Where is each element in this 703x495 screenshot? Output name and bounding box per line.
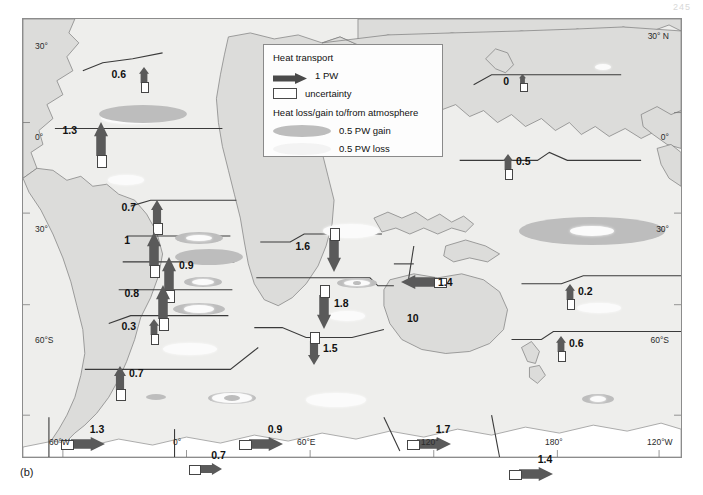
legend-title-flux: Heat loss/gain to/from atmosphere xyxy=(273,107,433,118)
legend-gain-label: 0.5 PW gain xyxy=(339,125,391,136)
transport-arrow-right-icon xyxy=(198,463,222,475)
page-number: 245 xyxy=(673,2,691,12)
uncertainty-box xyxy=(97,155,108,168)
longitude-label: 0° xyxy=(173,437,181,447)
uncertainty-box xyxy=(116,389,125,401)
legend-title: Heat transport xyxy=(273,52,433,63)
transport-value-label: 0 xyxy=(503,75,509,87)
latitude-label: 30° xyxy=(656,224,669,234)
transport-arrow-up-icon xyxy=(147,232,161,266)
uncertainty-box xyxy=(509,470,522,481)
heat-loss-ellipse xyxy=(570,226,614,236)
uncertainty-box xyxy=(505,169,513,180)
loss-ellipse-icon xyxy=(273,143,331,155)
uncertainty-box xyxy=(320,285,331,298)
uncertainty-box xyxy=(141,82,149,93)
legend-row-transport: 1 PW xyxy=(273,68,433,83)
transport-value-label: 1.7 xyxy=(436,423,451,435)
longitude-label: 120°W xyxy=(647,437,673,447)
longitude-label: 180° xyxy=(545,437,563,447)
transport-value-label: 1.3 xyxy=(90,423,105,435)
transport-value-label: 0.8 xyxy=(124,287,139,299)
transport-value-label: 0.6 xyxy=(569,337,584,349)
transport-value-label: 0.9 xyxy=(179,259,194,271)
latitude-label: 30° xyxy=(35,41,48,51)
gain-ellipse-icon xyxy=(273,125,331,137)
transport-value-label: 1.6 xyxy=(295,240,310,252)
heat-loss-ellipse xyxy=(108,175,144,185)
heat-loss-ellipse xyxy=(590,396,606,402)
figure-caption: (b) xyxy=(20,466,33,478)
figure-root: 245 xyxy=(0,0,703,495)
heat-loss-ellipse xyxy=(192,279,214,285)
transport-arrow-up-icon xyxy=(156,285,170,319)
transport-value-label: 0.9 xyxy=(268,423,283,435)
transport-value-label: 1.5 xyxy=(323,342,338,354)
transport-arrow-up-icon xyxy=(139,67,149,83)
legend-row-loss: 0.5 PW loss xyxy=(273,141,433,156)
transport-value-label: 1.3 xyxy=(62,124,77,136)
transport-arrow-left-icon xyxy=(401,275,435,289)
latitude-label: 60°S xyxy=(35,335,54,345)
heat-loss-ellipse xyxy=(163,343,217,355)
legend-uncertainty-label: uncertainty xyxy=(305,88,351,99)
latitude-label: 60°S xyxy=(650,335,669,345)
heat-loss-ellipse xyxy=(306,393,366,407)
latitude-label: 0° xyxy=(35,132,43,142)
transport-value-label: 0.3 xyxy=(121,320,136,332)
transport-arrow-down-icon xyxy=(317,295,331,329)
transport-arrow-up-icon xyxy=(94,122,108,156)
legend-panel: Heat transport 1 PW uncertainty Heat los… xyxy=(263,44,443,157)
heat-gain-ellipse xyxy=(224,395,240,401)
heat-gain-ellipse xyxy=(146,394,166,400)
uncertainty-box xyxy=(310,332,319,344)
uncertainty-box xyxy=(239,440,252,451)
latitude-label: 0° xyxy=(661,132,669,142)
longitude-label: 60°W xyxy=(49,437,70,447)
legend-row-gain: 0.5 PW gain xyxy=(273,123,433,138)
heat-loss-ellipse xyxy=(184,305,214,313)
transport-arrow-up-icon xyxy=(151,200,163,224)
heat-loss-ellipse xyxy=(329,311,365,321)
uncertainty-box xyxy=(407,440,420,451)
transport-value-label: 0.7 xyxy=(121,201,136,213)
longitude-label: 60°E xyxy=(297,437,316,447)
transport-arrow-up-icon xyxy=(556,336,566,352)
legend-transport-arrow-icon xyxy=(273,70,307,81)
transport-value-label: 0.7 xyxy=(211,449,226,461)
transport-value-label: 1.8 xyxy=(334,297,349,309)
uncertainty-box xyxy=(330,228,341,241)
uncertainty-box xyxy=(151,334,159,345)
uncertainty-box xyxy=(189,465,201,474)
transport-value-label: 0.7 xyxy=(129,367,144,379)
map-frame: 0.61.30.710.90.80.30.71.30.71.61.81.51.4… xyxy=(22,18,682,458)
transport-arrow-up-icon xyxy=(149,319,159,335)
transport-arrow-right-icon xyxy=(519,467,553,481)
transport-arrow-right-icon xyxy=(249,437,283,451)
legend-row-uncertainty: uncertainty xyxy=(273,86,433,101)
legend-transport-label: 1 PW xyxy=(315,70,338,81)
transport-value-label: 1 xyxy=(124,234,130,246)
transport-value-label: 0.5 xyxy=(516,155,531,167)
transport-value-label: 0.6 xyxy=(111,68,126,80)
transport-value-label: 1.4 xyxy=(538,453,553,465)
uncertainty-box xyxy=(558,351,566,362)
transport-arrow-right-icon xyxy=(71,437,105,451)
uncertainty-box xyxy=(520,83,528,92)
legend-loss-label: 0.5 PW loss xyxy=(339,143,390,154)
transport-arrow-down-icon xyxy=(327,238,341,272)
latitude-label: 30° N xyxy=(648,31,669,41)
transport-arrow-down-icon xyxy=(308,341,320,365)
heat-loss-ellipse xyxy=(577,303,621,313)
transport-arrow-up-icon xyxy=(565,284,575,300)
heat-loss-ellipse xyxy=(595,64,611,70)
uncertainty-box-icon xyxy=(273,88,297,99)
uncertainty-box xyxy=(150,265,161,278)
heat-loss-ellipse xyxy=(186,235,212,241)
indonesian-throughflow-latitude: 10 xyxy=(407,312,419,324)
transport-value-label: 0.2 xyxy=(578,285,593,297)
heat-gain-ellipse xyxy=(353,281,361,285)
uncertainty-box xyxy=(159,318,170,331)
heat-gain-ellipse xyxy=(99,105,187,123)
transport-arrow-up-icon xyxy=(503,154,513,170)
